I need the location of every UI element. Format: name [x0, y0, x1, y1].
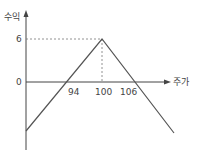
y-axis-arrow-icon	[24, 10, 29, 17]
y-tick-6: 6	[16, 34, 22, 44]
x-axis-label: 주가	[173, 77, 189, 87]
x-tick-106: 106	[120, 87, 137, 97]
x-axis-arrow-icon	[164, 80, 171, 85]
x-tick-100: 100	[95, 87, 112, 97]
y-axis-label: 수익	[4, 11, 20, 22]
payoff-line	[26, 39, 174, 133]
x-tick-94: 94	[68, 87, 80, 97]
y-tick-0: 0	[16, 77, 22, 87]
payoff-chart: 수익 주가 6 0 94 100 106	[0, 0, 211, 160]
